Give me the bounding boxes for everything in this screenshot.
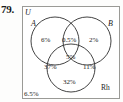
figure-panel: 79. U A B Rh 6% 0.5% 2% 5% 37% 11% 32% 6… <box>0 0 123 102</box>
region-value-b-rh: 11% <box>83 64 95 71</box>
region-value-a-rh: 37% <box>44 64 57 71</box>
region-value-b-only: 2% <box>89 37 98 44</box>
region-value-a-b-rh: 5% <box>66 54 75 61</box>
set-label-b: B <box>108 20 113 28</box>
region-value-rh-only: 32% <box>63 79 76 86</box>
region-value-a-only: 6% <box>41 37 50 44</box>
set-label-a: A <box>31 20 36 28</box>
region-value-outside-all: 6.5% <box>24 91 39 98</box>
set-label-rh: Rh <box>101 84 110 92</box>
universal-set-label: U <box>25 9 31 17</box>
problem-number: 79. <box>1 4 14 15</box>
region-value-a-b: 0.5% <box>62 37 76 44</box>
